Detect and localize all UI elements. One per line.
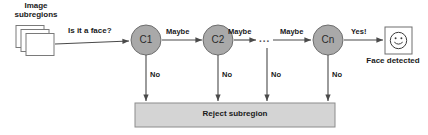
- edge-label-no-ellipsis: No: [271, 71, 281, 79]
- classifier-node-c1-label: C1: [131, 34, 161, 45]
- image-subregions-label: Image subregions: [5, 2, 67, 20]
- cascade-classifier-diagram: Image subregions Is it a face? Maybe May…: [0, 0, 428, 135]
- reject-subregion-label: Reject subregion: [135, 110, 335, 119]
- smiley-face-icon: [390, 32, 406, 48]
- classifier-node-c2-label: C2: [203, 34, 233, 45]
- edge-label-no-c2: No: [222, 71, 232, 79]
- question-label: Is it a face?: [68, 27, 112, 36]
- classifier-node-cn-label: Cn: [313, 34, 343, 45]
- image-subregions-label-line2: subregions: [5, 11, 67, 20]
- edge-input-to-c1: [55, 41, 129, 44]
- face-detected-label: Face detected: [358, 57, 428, 66]
- stage-ellipsis-label: ...: [259, 33, 270, 44]
- image-subregions-stack-icon: [16, 26, 54, 56]
- edge-label-no-cn: No: [332, 71, 342, 79]
- face-detected-box[interactable]: [385, 27, 412, 54]
- edge-label-maybe-c1: Maybe: [166, 28, 189, 36]
- edge-label-yes: Yes!: [351, 28, 366, 36]
- edge-label-no-c1: No: [150, 71, 160, 79]
- edge-label-maybe-ellipsis: Maybe: [280, 28, 303, 36]
